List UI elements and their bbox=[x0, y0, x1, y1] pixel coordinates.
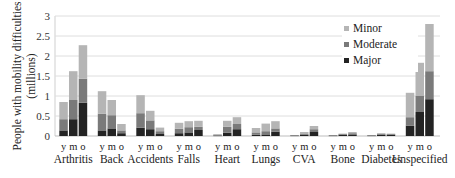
legend-label-minor: Minor bbox=[353, 22, 382, 34]
bar-segment-moderate bbox=[79, 79, 88, 103]
bar-group-diabetes bbox=[367, 133, 395, 136]
bar-group-lungs bbox=[252, 121, 280, 136]
bar-segment-moderate bbox=[377, 134, 386, 135]
subgroup-label: m bbox=[377, 141, 385, 152]
y-tick-label: 2.5 bbox=[36, 30, 50, 42]
bar-segment-major bbox=[252, 135, 260, 136]
bar-segment-minor bbox=[79, 45, 88, 79]
bar-segment-moderate bbox=[348, 133, 357, 134]
bar-segment-moderate bbox=[233, 124, 242, 129]
legend-label-major: Major bbox=[353, 54, 381, 67]
bar-segment-minor bbox=[146, 111, 155, 121]
bar-segment-major bbox=[156, 134, 165, 136]
subgroup-label: m bbox=[185, 141, 193, 152]
bar-segment-minor bbox=[194, 121, 203, 127]
bar-segment-moderate bbox=[136, 113, 145, 127]
bar-segment-moderate bbox=[108, 115, 117, 128]
bar-segment-minor bbox=[59, 102, 68, 119]
bar-segment-minor bbox=[425, 24, 434, 71]
y-tick-label: 0 bbox=[45, 130, 51, 142]
category-label: Bone bbox=[331, 153, 355, 165]
y-tick-label: 1 bbox=[45, 90, 51, 102]
bar-group-bone bbox=[329, 132, 357, 136]
bar-segment-moderate bbox=[175, 129, 184, 133]
bar-segment-major bbox=[348, 134, 357, 136]
bar-segment-minor bbox=[339, 134, 348, 135]
bar-segment-moderate bbox=[223, 127, 232, 133]
subgroup-label: m bbox=[300, 141, 308, 152]
bar-segment-moderate bbox=[300, 134, 309, 135]
legend: MinorModerateMajor bbox=[342, 18, 418, 72]
y-tick-label: 2 bbox=[45, 50, 51, 62]
bar-segment-moderate bbox=[252, 132, 260, 134]
bar-segment-moderate bbox=[98, 114, 107, 131]
bar-segment-minor bbox=[387, 134, 396, 135]
category-label: Falls bbox=[178, 153, 201, 165]
bar-segment-major bbox=[271, 132, 280, 136]
bar-segment-moderate bbox=[425, 71, 434, 99]
bar-segment-major bbox=[300, 135, 309, 136]
subgroup-label: o bbox=[388, 141, 393, 152]
bar-segment-major bbox=[175, 133, 184, 136]
bar-segment-major bbox=[233, 129, 242, 136]
bar-segment-moderate bbox=[339, 134, 348, 135]
bar-segment-major bbox=[185, 132, 194, 136]
bar-segment-minor bbox=[117, 124, 126, 130]
category-label: CVA bbox=[293, 153, 316, 165]
bar-segment-major bbox=[98, 130, 107, 136]
category-label: Arthritis bbox=[54, 153, 93, 165]
bar-segment-minor bbox=[136, 95, 145, 113]
bar-segment-moderate bbox=[406, 117, 415, 125]
bar-segment-major bbox=[387, 135, 396, 136]
bar-segment-moderate bbox=[290, 135, 299, 136]
bar-group-heart bbox=[213, 117, 241, 136]
category-label: Unspecified bbox=[392, 153, 448, 166]
bar-segment-major bbox=[79, 103, 88, 136]
subgroup-label: y bbox=[292, 141, 298, 152]
subgroup-label: o bbox=[234, 141, 239, 152]
y-tick-label: 1.5 bbox=[36, 70, 50, 82]
subgroup-label: o bbox=[157, 141, 162, 152]
subgroup-label: o bbox=[427, 141, 432, 152]
subgroup-label: y bbox=[99, 141, 105, 152]
bar-segment-minor bbox=[252, 128, 260, 132]
bar-segment-moderate bbox=[387, 134, 396, 135]
bar-segment-minor bbox=[185, 121, 194, 127]
bar-segment-moderate bbox=[117, 130, 126, 133]
bar-segment-moderate bbox=[194, 127, 203, 130]
legend-label-moderate: Moderate bbox=[353, 38, 397, 50]
bar-group-falls bbox=[175, 121, 203, 136]
bar-segment-minor bbox=[213, 134, 222, 135]
bar-segment-minor bbox=[271, 121, 280, 128]
subgroup-label: y bbox=[407, 141, 413, 152]
bar-segment-moderate bbox=[329, 135, 338, 136]
legend-swatch-major bbox=[344, 58, 349, 63]
subgroup-label: y bbox=[138, 141, 144, 152]
legend-swatch-minor bbox=[344, 26, 349, 31]
subgroup-label: y bbox=[176, 141, 182, 152]
bar-segment-minor bbox=[300, 132, 309, 134]
bar-segment-minor bbox=[223, 121, 232, 127]
chart: People with mobility difficulties (milli… bbox=[0, 0, 455, 178]
bar-segment-minor bbox=[69, 71, 78, 100]
subgroup-label: o bbox=[350, 141, 355, 152]
subgroup-label: o bbox=[311, 141, 316, 152]
bar-segment-minor bbox=[156, 128, 165, 132]
bar-segment-moderate bbox=[59, 119, 68, 130]
subgroup-label: o bbox=[196, 141, 201, 152]
subgroup-label: m bbox=[108, 141, 116, 152]
subgroup-label: y bbox=[61, 141, 67, 152]
bar-segment-moderate bbox=[271, 128, 280, 131]
bar-segment-minor bbox=[175, 123, 184, 129]
bar-segment-major bbox=[59, 130, 68, 136]
subgroup-label: o bbox=[119, 141, 124, 152]
bar-segment-moderate bbox=[416, 96, 425, 112]
bar-segment-major bbox=[425, 99, 434, 136]
bar-segment-moderate bbox=[146, 120, 155, 129]
bar-group-cva bbox=[290, 126, 318, 136]
bar-segment-minor bbox=[98, 91, 107, 113]
y-axis-label: People with mobility difficulties (milli… bbox=[11, 1, 38, 150]
subgroup-label: m bbox=[262, 141, 270, 152]
category-label: Heart bbox=[214, 153, 240, 165]
bar-segment-major bbox=[117, 133, 126, 136]
